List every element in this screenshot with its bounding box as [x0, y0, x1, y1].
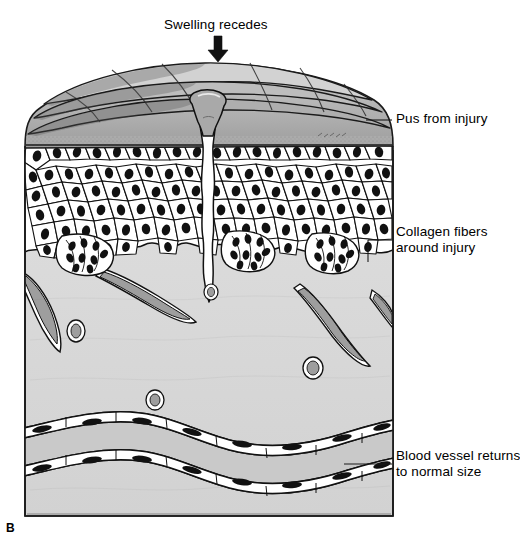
- callout-label-pus: Pus from injury: [396, 111, 488, 127]
- swelling-recedes-label: Swelling recedes: [164, 17, 268, 33]
- callout-label-blood-vessel-line2: to normal size: [396, 464, 481, 479]
- callout-label-blood-vessel-line1: Blood vessel returns: [396, 448, 520, 463]
- callout-label-collagen-line1: Collagen fibers: [396, 224, 488, 239]
- panel-letter: B: [6, 520, 15, 536]
- callout-label-collagen-line2: around injury: [396, 240, 475, 255]
- callout-label-collagen: Collagen fibersaround injury: [396, 224, 488, 256]
- down-arrow-icon: [208, 36, 228, 62]
- callout-label-blood-vessel: Blood vessel returnsto normal size: [396, 448, 520, 480]
